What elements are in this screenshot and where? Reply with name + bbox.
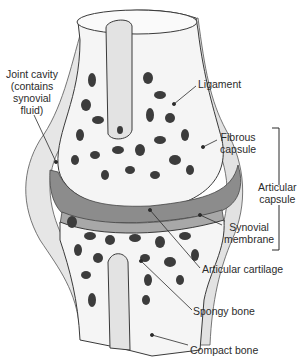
articular-cartilage-label: Articular cartilage [202,263,283,275]
lower-bone [60,220,224,356]
joint-cavity-line-1: Joint cavity [6,68,58,80]
upper-bone [58,10,223,210]
synovial-membrane-line-1: Synovial [224,221,274,233]
ligament-label: Ligament [198,78,241,90]
joint-cavity-line-2: (contains [6,80,58,92]
synovial-membrane-label: Synovial membrane [224,221,274,245]
fibrous-capsule-line-1: Fibrous [220,131,256,143]
joint-cavity-line-3: synovial [6,92,58,104]
articular-capsule-line-1: Articular [258,181,297,193]
medullary-cavity-lower [108,254,130,350]
articular-capsule-label: Articular capsule [258,181,297,205]
fibrous-capsule-label: Fibrous capsule [220,131,256,155]
joint-cavity-label: Joint cavity (contains synovial fluid) [6,68,58,116]
articular-capsule-line-2: capsule [258,193,297,205]
synovial-membrane-line-2: membrane [224,233,274,245]
medullary-cavity-upper [106,20,132,139]
fibrous-capsule-line-2: capsule [220,143,256,155]
joint-cavity-line-4: fluid) [6,104,58,116]
compact-bone-label: Compact bone [190,344,258,356]
upper-bone-cut-face [77,10,197,34]
spongy-bone-label: Spongy bone [193,305,255,317]
